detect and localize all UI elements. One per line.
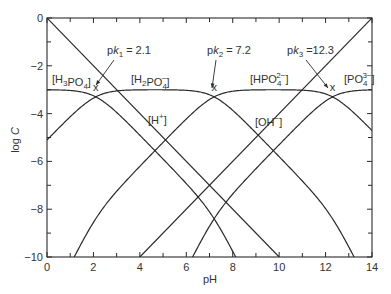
curve-oh [140,18,372,257]
y-axis-title-log: log [9,135,21,153]
pk3-arrow [306,60,328,88]
curve-hpo4 [47,90,372,272]
species-label-h2po4: [H2PO4−] [131,73,170,91]
annotations: [H3PO4][H2PO4−][HPO42−][PO43−][H+][OH−]p… [52,44,375,128]
pk2-label: pk2 = 7.2 [207,44,251,59]
y-tick-label: −10 [24,251,43,263]
pk1-arrow [96,60,114,85]
x-tick-label: 14 [366,261,378,273]
y-axis-title: log C [9,127,21,153]
x-tick-label: 4 [137,261,143,273]
species-label-h3po4: [H3PO4] [52,73,91,91]
x-tick-label: 10 [273,261,285,273]
pk1-label: pk1 = 2.1 [107,44,151,59]
curve-h3po4 [47,90,372,272]
pk2-marker: x [211,81,217,93]
x-tick-label: 12 [319,261,331,273]
y-axis-title-c: C [9,127,21,135]
x-tick-label: 8 [230,261,236,273]
pk1-marker: x [93,81,99,93]
log-c-ph-diagram: 024681012140−2−4−6−8−10 [H3PO4][H2PO4−][… [0,0,391,294]
x-axis-title: pH [203,273,217,285]
y-tick-label: −8 [30,203,43,215]
pk3-label: pk3 =12.3 [287,44,334,59]
curve-po4 [47,90,372,271]
curve-h2po4 [47,90,372,272]
y-tick-label: 0 [37,12,43,24]
species-label-po4: [PO43−] [344,71,375,88]
species-label-oh: [OH−] [255,114,282,128]
y-tick-label: −6 [30,155,43,167]
y-tick-label: −4 [30,108,43,120]
y-tick-label: −2 [30,60,43,72]
species-label-h: [H+] [148,112,167,126]
x-tick-label: 0 [44,261,50,273]
pk3-marker: x [330,81,336,93]
x-tick-label: 2 [90,261,96,273]
x-tick-label: 6 [183,261,189,273]
species-curves [47,18,372,271]
species-label-hpo4: [HPO42−] [250,71,289,88]
